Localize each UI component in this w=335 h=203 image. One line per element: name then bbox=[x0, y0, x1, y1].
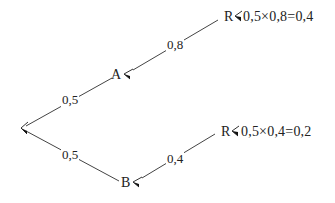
calc-result-top: 0,5×0,8=0,4 bbox=[243, 9, 314, 24]
node-a-marker-icon bbox=[124, 69, 133, 79]
node-r-bottom-label: R bbox=[221, 124, 230, 139]
calc-result-bottom: 0,5×0,4=0,2 bbox=[241, 124, 312, 139]
node-r-top-marker-icon bbox=[235, 11, 242, 21]
node-a-label: A bbox=[111, 67, 121, 82]
node-b-marker-icon bbox=[133, 177, 142, 187]
edge-label-a-r: 0,8 bbox=[166, 38, 184, 52]
edge-label-b-r: 0,4 bbox=[166, 152, 184, 166]
node-r-top-label: R bbox=[224, 9, 233, 24]
root-marker-icon bbox=[21, 122, 28, 134]
edge-label-root-a: 0,5 bbox=[61, 93, 79, 107]
probability-tree bbox=[0, 0, 335, 203]
node-r-bottom-marker-icon bbox=[232, 126, 239, 136]
edge-label-root-b: 0,5 bbox=[61, 148, 79, 162]
node-b-label: B bbox=[121, 175, 130, 190]
